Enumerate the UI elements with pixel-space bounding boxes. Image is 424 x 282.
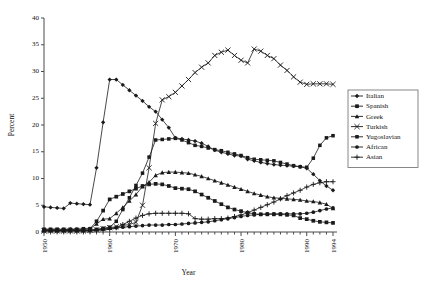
y-tick-label: 25 (32, 94, 40, 102)
marker-yugoslavian (220, 149, 224, 153)
marker-yugoslavian (318, 144, 322, 148)
marker-yugoslavian (200, 145, 204, 149)
marker-african (252, 213, 256, 217)
marker-spanish (331, 221, 335, 225)
marker-african (187, 222, 191, 226)
marker-italian (331, 188, 335, 192)
legend: ItalianSpanishGreekTurkishYugoslavianAfr… (348, 90, 418, 167)
x-tick-label: 1980 (238, 239, 246, 254)
marker-yugoslavian (114, 220, 118, 224)
chart-figure: 0510152025303540195019601970198019901994… (0, 0, 424, 282)
marker-yugoslavian (279, 161, 283, 165)
marker-african (154, 223, 158, 227)
marker-yugoslavian (187, 141, 191, 145)
marker-yugoslavian (167, 137, 171, 141)
marker-african (318, 209, 322, 213)
line-chart-canvas: 0510152025303540195019601970198019901994… (0, 0, 424, 282)
marker-yugoslavian (331, 134, 335, 138)
marker-spanish (318, 220, 322, 224)
marker-spanish (121, 192, 125, 196)
marker-yugoslavian (292, 164, 296, 168)
series-african (42, 206, 335, 232)
marker-african (134, 224, 138, 228)
y-tick-label: 0 (36, 228, 40, 236)
marker-yugoslavian (193, 144, 197, 148)
marker-spanish (101, 209, 105, 213)
marker-african (311, 210, 315, 214)
marker-spanish (167, 184, 171, 188)
x-tick-label: 1990 (303, 239, 311, 254)
marker-italian (94, 166, 98, 170)
y-axis-title: Percent (7, 113, 16, 136)
marker-african (285, 212, 289, 216)
marker-spanish (128, 189, 132, 193)
marker-african (331, 206, 335, 210)
marker-african (272, 212, 276, 216)
marker-yugoslavian (154, 138, 158, 142)
marker-spanish (226, 206, 230, 210)
y-tick-label: 30 (32, 67, 40, 75)
marker-african (141, 224, 145, 228)
legend-label-spanish: Spanish (366, 102, 389, 110)
marker-yugoslavian (160, 138, 164, 142)
marker-italian (193, 139, 197, 143)
marker-african (167, 223, 171, 227)
marker-yugoslavian (147, 155, 151, 159)
marker-yugoslavian (252, 157, 256, 161)
marker-spanish (114, 195, 118, 199)
marker-yugoslavian (141, 171, 145, 175)
x-tick-label: 1950 (41, 239, 49, 254)
marker-spanish (174, 186, 178, 190)
marker-spanish (325, 221, 329, 225)
marker-african (265, 212, 269, 216)
marker-yugoslavian (213, 148, 217, 152)
y-tick-label: 20 (32, 121, 40, 129)
series-asian (41, 179, 335, 233)
marker-yugoslavian (121, 208, 125, 212)
marker-greek (153, 173, 158, 177)
legend-label-yugoslavian: Yugoslavian (366, 133, 401, 141)
marker-yugoslavian (206, 146, 210, 150)
marker-spanish (305, 217, 309, 221)
legend-label-turkish: Turkish (366, 123, 388, 131)
marker-spanish (219, 202, 223, 206)
marker-yugoslavian (285, 162, 289, 166)
marker-yugoslavian (246, 156, 250, 160)
y-tick-label: 15 (32, 147, 40, 155)
marker-yugoslavian (233, 152, 237, 156)
marker-italian (55, 206, 59, 210)
marker-african (128, 225, 132, 229)
marker-yugoslavian (272, 159, 276, 163)
marker-yugoslavian (128, 196, 132, 200)
legend-marker-yugoslavian (355, 135, 359, 139)
marker-italian (101, 120, 105, 124)
marker-african (160, 223, 164, 227)
marker-yugoslavian (305, 166, 309, 170)
marker-yugoslavian (180, 138, 184, 142)
marker-italian (272, 162, 276, 166)
x-tick-label: 1994 (330, 239, 338, 254)
legend-label-italian: Italian (366, 92, 384, 100)
marker-spanish (233, 208, 237, 212)
marker-spanish (108, 198, 112, 202)
series-yugoslavian (42, 134, 335, 232)
marker-spanish (180, 187, 184, 191)
marker-yugoslavian (325, 136, 329, 140)
marker-yugoslavian (239, 154, 243, 158)
y-tick-label: 35 (32, 40, 40, 48)
marker-african (259, 212, 263, 216)
marker-african (147, 223, 151, 227)
legend-label-greek: Greek (366, 113, 384, 121)
marker-african (174, 223, 178, 227)
series-line-greek (44, 172, 333, 230)
marker-spanish (206, 196, 210, 200)
x-tick-label: 1970 (172, 239, 180, 254)
marker-african (305, 211, 309, 215)
marker-spanish (311, 219, 315, 223)
legend-marker-african (355, 145, 359, 149)
x-axis-title: Year (182, 268, 196, 277)
marker-spanish (213, 199, 217, 203)
marker-spanish (154, 182, 158, 186)
marker-yugoslavian (134, 184, 138, 188)
marker-italian (75, 201, 79, 205)
